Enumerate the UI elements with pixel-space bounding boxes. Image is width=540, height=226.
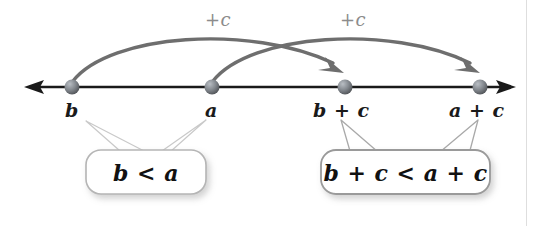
callout-right-text: b + c < a + c xyxy=(321,160,490,186)
point-dot-a xyxy=(205,80,220,95)
number-line-axis xyxy=(24,80,516,94)
callout-left-text: b < a xyxy=(86,160,206,186)
tick-label-b: b xyxy=(65,99,79,121)
tick-label-a-plus-c: a + c xyxy=(449,99,505,121)
point-dot-a-c xyxy=(473,80,488,95)
arc-a-to-ac xyxy=(213,39,480,81)
point-dot-b xyxy=(65,80,80,95)
arc-label-plus-c-1: +c xyxy=(205,9,231,30)
arc-b-to-bc xyxy=(73,39,344,81)
tick-label-a: a xyxy=(205,99,218,121)
page-edge-artifact xyxy=(526,0,527,226)
figure-canvas: +c +c b a b + c a + c b < a b + c < a + … xyxy=(0,0,540,226)
point-dot-b-c xyxy=(338,80,353,95)
tick-label-b-plus-c: b + c xyxy=(313,99,370,121)
arc-label-plus-c-2: +c xyxy=(340,9,366,30)
